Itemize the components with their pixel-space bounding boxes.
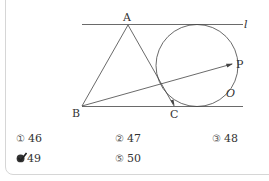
option-marker: ③ xyxy=(212,133,221,144)
option-1[interactable]: ①46 xyxy=(16,132,42,146)
label-a: A xyxy=(122,11,132,24)
option-value: 47 xyxy=(127,132,141,145)
label-c: C xyxy=(170,108,178,121)
option-marker: ⑤ xyxy=(115,153,124,164)
label-p: P xyxy=(236,58,244,71)
arrow-head-c xyxy=(171,100,175,107)
option-marker: ① xyxy=(16,133,25,144)
option-marker: ② xyxy=(115,133,124,144)
option-5[interactable]: ⑤50 xyxy=(115,152,141,166)
arrow-head-p xyxy=(226,64,233,68)
option-value: 46 xyxy=(28,132,42,145)
geometry-figure: A B C P O l xyxy=(0,0,269,125)
option-value: 48 xyxy=(224,132,238,145)
segment-ab xyxy=(82,25,128,106)
segment-bp xyxy=(82,64,232,106)
option-value: 49 xyxy=(27,152,41,165)
option-value: 50 xyxy=(127,152,141,165)
option-3[interactable]: ③48 xyxy=(212,132,238,146)
label-o: O xyxy=(226,87,235,100)
label-l: l xyxy=(244,18,248,31)
label-b: B xyxy=(72,107,80,120)
checkmark-icon xyxy=(16,152,27,163)
option-4-selected[interactable]: 49 xyxy=(16,152,41,166)
option-2[interactable]: ②47 xyxy=(115,132,141,146)
